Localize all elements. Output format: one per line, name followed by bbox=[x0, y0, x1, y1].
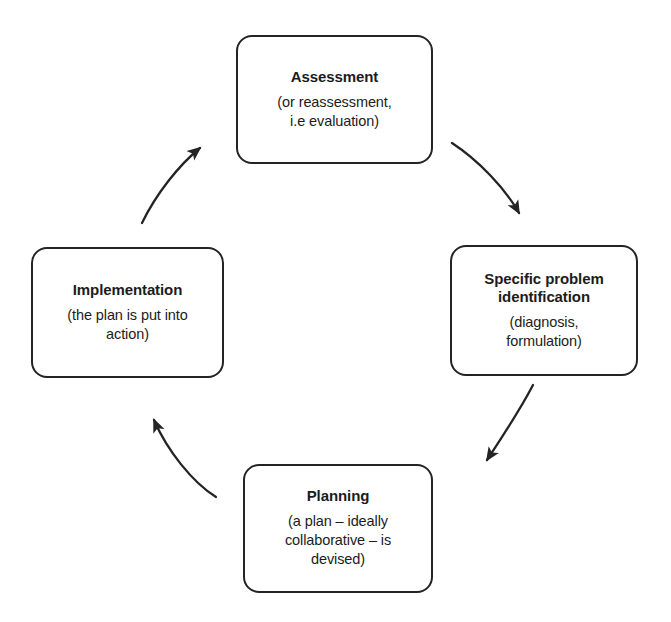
node-assessment[interactable]: Assessment (or reassessment, i.e evaluat… bbox=[236, 35, 433, 164]
arrow-implementation-to-assessment bbox=[142, 148, 200, 223]
node-implementation-title: Implementation bbox=[73, 281, 182, 300]
node-implementation[interactable]: Implementation (the plan is put into act… bbox=[31, 247, 224, 378]
node-assessment-title: Assessment bbox=[291, 68, 378, 87]
arrow-planning-to-implementation bbox=[154, 420, 216, 497]
node-planning-subtitle: (a plan – ideally collaborative – is dev… bbox=[285, 512, 391, 569]
node-implementation-subtitle: (the plan is put into action) bbox=[67, 306, 187, 344]
arrow-specific-problem-to-planning bbox=[487, 385, 533, 460]
arrow-assessment-to-specific-problem bbox=[452, 143, 519, 213]
node-assessment-subtitle: (or reassessment, i.e evaluation) bbox=[277, 93, 391, 131]
cycle-diagram: Assessment (or reassessment, i.e evaluat… bbox=[0, 0, 671, 622]
node-specific-problem-identification-title: Specific problem identification bbox=[484, 270, 603, 308]
node-planning[interactable]: Planning (a plan – ideally collaborative… bbox=[243, 464, 433, 593]
node-specific-problem-identification[interactable]: Specific problem identification (diagnos… bbox=[450, 245, 638, 376]
node-specific-problem-identification-subtitle: (diagnosis, formulation) bbox=[506, 313, 581, 351]
node-planning-title: Planning bbox=[307, 487, 370, 506]
